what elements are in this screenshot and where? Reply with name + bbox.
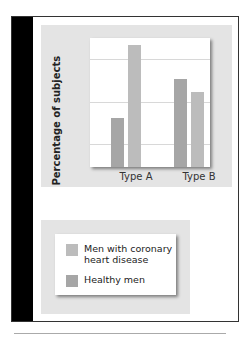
plot-area (90, 38, 210, 167)
figure-frame: Percentage of subjects 75 50 25 Type A T… (11, 16, 239, 322)
x-category-type-a: Type A (111, 171, 161, 182)
legend-swatch-coronary-heart-disease (66, 244, 78, 256)
legend-panel: Men with coronary heart disease Healthy … (41, 220, 190, 314)
bar-type-a-coronary-heart-disease (128, 45, 141, 167)
y-axis-label: Percentage of subjects (51, 76, 62, 186)
legend-label: Men with coronary heart disease (84, 243, 174, 265)
decorative-black-bar (12, 17, 33, 321)
bar-type-b-healthy-men (174, 79, 187, 167)
bar-type-b-coronary-heart-disease (191, 92, 204, 167)
legend: Men with coronary heart disease Healthy … (55, 234, 176, 295)
gridline-75 (90, 59, 210, 60)
chart-panel: Percentage of subjects 75 50 25 Type A T… (41, 25, 232, 187)
bottom-divider (14, 333, 226, 334)
legend-item-healthy-men: Healthy men (66, 274, 174, 287)
legend-label: Healthy men (84, 274, 174, 285)
bar-type-a-healthy-men (111, 118, 124, 167)
x-category-type-b: Type B (174, 171, 224, 182)
legend-item-coronary-heart-disease: Men with coronary heart disease (66, 243, 174, 265)
legend-swatch-healthy-men (66, 275, 78, 287)
